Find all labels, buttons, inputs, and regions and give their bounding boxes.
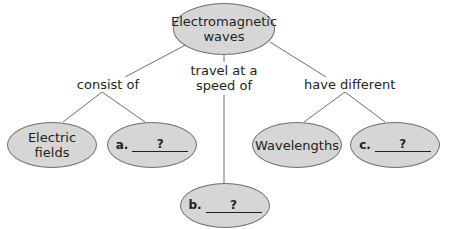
node-b-blank[interactable]: b. ? <box>180 183 270 228</box>
root-label-line1: Electromagnetic <box>171 14 277 29</box>
root-node-electromagnetic-waves: Electromagnetic waves <box>173 3 275 55</box>
node-electric-fields: Electric fields <box>7 122 97 168</box>
node-a-blank[interactable]: a. ? <box>107 122 197 168</box>
node-c-blank[interactable]: c. ? <box>350 122 440 168</box>
root-label-line2: waves <box>171 29 277 44</box>
answer-blank-b[interactable]: ? <box>206 199 262 213</box>
link-label-consist-of: consist of <box>76 77 140 92</box>
answer-blank-c[interactable]: ? <box>375 138 431 152</box>
link-label-have-different: have different <box>304 77 394 92</box>
link-label-travel-at-speed: travel at a speed of <box>190 63 258 93</box>
node-wavelengths: Wavelengths <box>252 122 342 168</box>
answer-blank-a[interactable]: ? <box>132 138 188 152</box>
